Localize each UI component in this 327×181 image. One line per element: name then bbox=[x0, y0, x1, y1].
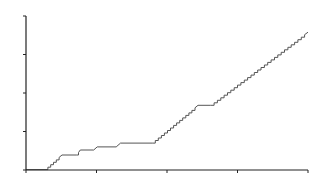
y-axis bbox=[23, 16, 26, 170]
line-chart bbox=[0, 0, 327, 181]
x-axis bbox=[26, 170, 308, 173]
plot-line bbox=[26, 32, 308, 169]
